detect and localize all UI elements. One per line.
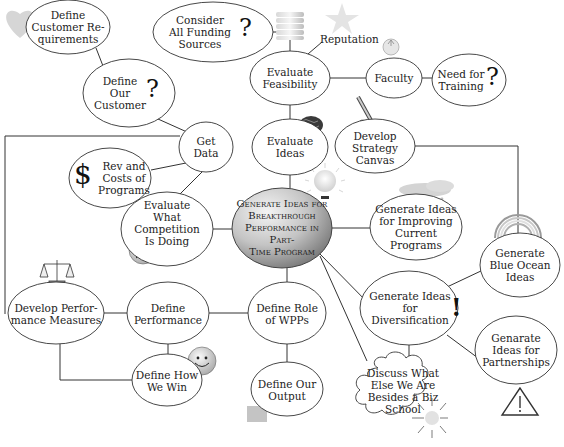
node-define-our-customer[interactable]: Define Our Customer [90,59,150,127]
node-generate-blue-ocean[interactable]: Generate Blue Ocean Ideas [480,233,560,297]
reputation-label[interactable]: Reputation [320,33,379,45]
node-faculty[interactable]: Faculty [366,58,422,98]
node-label: Define Our Output [258,378,316,402]
question-mark-icon: ? [146,75,159,103]
dollar-sign-icon: $ [74,158,92,191]
scales-icon [40,260,74,284]
apple-icon [383,39,399,55]
node-generate-ideas-diversification[interactable]: Generate Ideas for Diversification [364,283,456,333]
node-label: Define Customer Re- quirements [32,9,105,45]
node-generate-ideas-improving[interactable]: Generate Ideas for Improving Current Pro… [370,194,462,260]
node-define-our-output[interactable]: Define Our Output [251,374,323,406]
node-label: Generate Ideas for Diversification [364,290,456,326]
node-consider-all-funding-sources[interactable]: Consider All Funding Sources [158,2,242,62]
node-label: Genarate Ideas for Partnerships [482,332,550,368]
node-get-data[interactable]: Get Data [179,122,233,172]
node-label: Define How We Win [136,369,198,393]
node-genarate-partnerships[interactable]: Genarate Ideas for Partnerships [475,316,557,384]
exclamation-mark-icon: ! [451,293,462,322]
node-discuss-what-else[interactable]: Discuss What Else We Are Besides a Biz S… [365,360,441,422]
question-mark-icon: ? [239,14,252,42]
node-label: Generate Blue Ocean Ideas [489,247,550,283]
node-label: Develop Perfor- mance Measures [11,302,101,326]
node-label: Discuss What Else We Are Besides a Biz S… [367,367,439,415]
node-label: Evaluate Ideas [267,135,314,159]
node-label: Faculty [375,72,414,84]
node-label: Get Data [193,135,218,159]
coin-stack-icon [276,12,304,40]
warning-triangle-icon [502,388,538,415]
node-develop-performance-measures[interactable]: Develop Perfor- mance Measures [8,298,104,330]
node-label: Define Performance [134,302,202,326]
node-need-for-training[interactable]: Need for Training [432,54,490,106]
node-evaluate-competition[interactable]: Evaluate What Competition Is Doing [121,200,213,246]
node-label: Develop Strategy Canvas [352,130,398,166]
star-icon [325,3,359,34]
node-label: Generate Ideas for Improving Current Pro… [370,203,462,251]
node-label: Need for Training [438,68,485,92]
node-develop-strategy-canvas[interactable]: Develop Strategy Canvas [335,121,415,175]
node-center-generate-ideas[interactable]: Generate Ideas for Breakthrough Performa… [232,188,332,268]
node-label: Consider All Funding Sources [169,14,231,50]
question-mark-icon: ? [486,63,499,91]
node-label: Define Role of WPPs [256,302,318,326]
node-evaluate-feasibility[interactable]: Evaluate Feasibility [250,51,330,105]
node-define-performance[interactable]: Define Performance [127,298,209,330]
node-define-customer-requirements[interactable]: Define Customer Re- quirements [26,0,110,54]
node-label: Define Our Customer [94,75,146,111]
node-label: Rev and Costs of Programs [98,160,150,196]
node-define-how-we-win[interactable]: Define How We Win [132,365,202,397]
node-label: Evaluate Feasibility [263,66,318,90]
node-define-role-wpps[interactable]: Define Role of WPPs [248,298,326,330]
node-evaluate-ideas[interactable]: Evaluate Ideas [252,119,328,175]
node-label: Evaluate What Competition Is Doing [121,199,213,247]
center-node-label: Generate Ideas for Breakthrough Performa… [232,198,332,258]
